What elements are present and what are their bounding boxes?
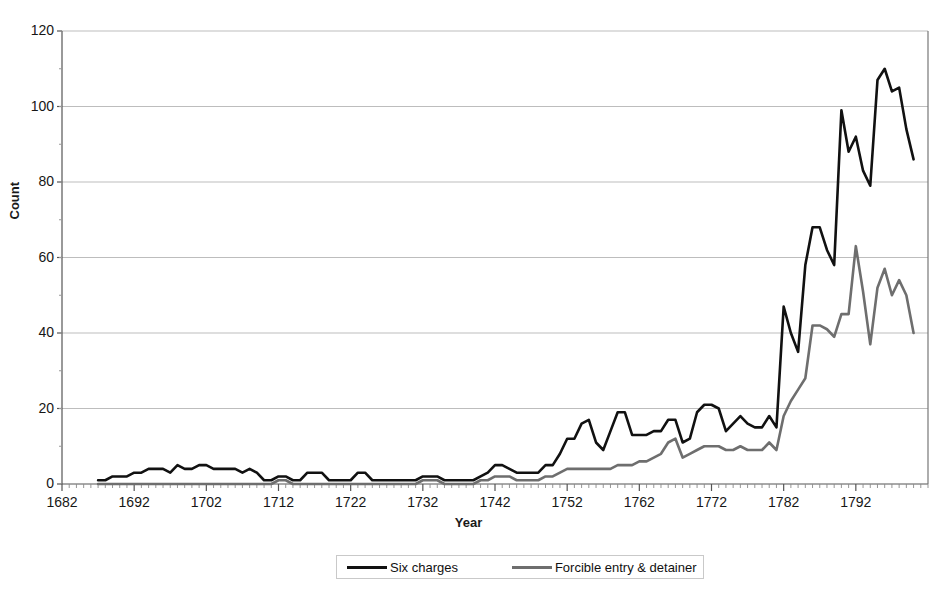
y-tick-label: 0: [10, 476, 54, 490]
y-tick-label: 80: [10, 174, 54, 188]
x-tick-label: 1792: [826, 495, 886, 509]
legend-swatch-icon: [347, 566, 387, 569]
legend-entry-six-charges: Six charges: [337, 560, 458, 575]
x-tick-label: 1682: [32, 495, 92, 509]
y-tick-label: 120: [10, 23, 54, 37]
x-tick-label: 1732: [393, 495, 453, 509]
chart-legend: Six charges Forcible entry & detainer: [336, 555, 704, 579]
y-tick-label: 100: [10, 99, 54, 113]
legend-label: Six charges: [390, 560, 458, 575]
y-tick-label: 60: [10, 250, 54, 264]
x-tick-label: 1712: [249, 495, 309, 509]
x-tick-label: 1742: [465, 495, 525, 509]
x-tick-label: 1702: [176, 495, 236, 509]
x-tick-label: 1762: [609, 495, 669, 509]
x-tick-label: 1782: [754, 495, 814, 509]
x-tick-label: 1752: [537, 495, 597, 509]
x-tick-label: 1722: [321, 495, 381, 509]
x-tick-label: 1772: [682, 495, 742, 509]
x-axis-title: Year: [0, 515, 937, 530]
legend-entry-forcible-entry-detainer: Forcible entry & detainer: [502, 560, 697, 575]
series-line-1: [98, 246, 913, 484]
legend-swatch-icon: [512, 566, 552, 569]
line-chart: Count Year 020406080100120 1682169217021…: [0, 0, 937, 607]
x-tick-label: 1692: [104, 495, 164, 509]
legend-label: Forcible entry & detainer: [555, 560, 697, 575]
y-tick-label: 20: [10, 401, 54, 415]
y-tick-label: 40: [10, 325, 54, 339]
series-line-0: [98, 69, 913, 480]
